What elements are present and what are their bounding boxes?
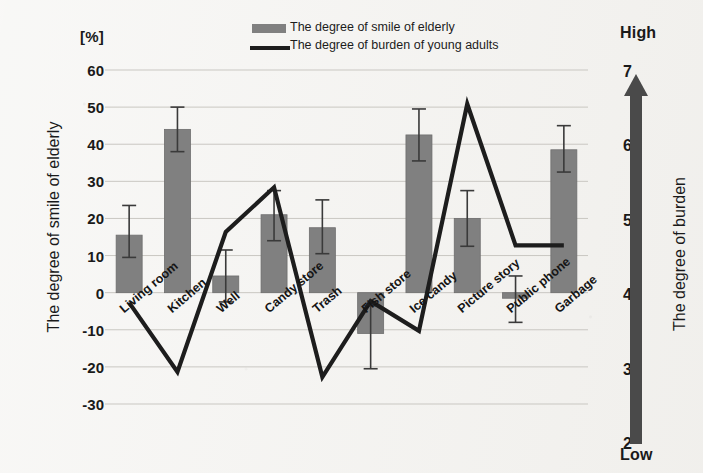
chart-figure: The degree of smile of elderly The degre…: [0, 0, 703, 473]
right-axis-arrowhead: [624, 74, 648, 96]
right-axis-shaft: [630, 90, 642, 444]
plot-area: [0, 0, 703, 473]
line-series-group: [129, 104, 564, 377]
right-axis-arrow-group: [624, 74, 648, 444]
burden-line: [129, 104, 564, 377]
